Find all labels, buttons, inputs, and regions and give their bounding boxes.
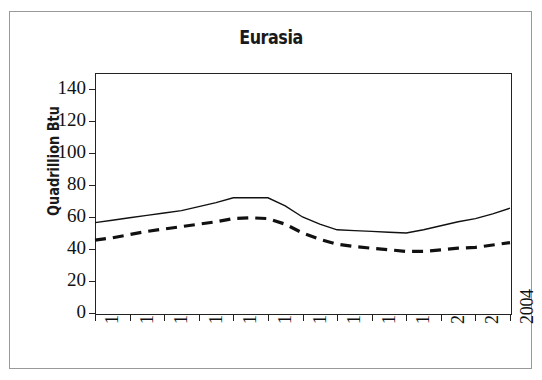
x-tick-mark: [130, 314, 131, 321]
x-tick-mark: [337, 314, 338, 321]
y-tick-label: 120: [26, 110, 86, 129]
y-tick-label: 40: [26, 238, 86, 257]
x-tick-mark: [303, 314, 304, 321]
x-tick-mark: [406, 314, 407, 321]
chart-figure: Eurasia Quadrillion Btu 0204060801001201…: [0, 0, 542, 380]
y-tick-label: 20: [26, 270, 86, 289]
x-tick-mark: [268, 314, 269, 321]
x-tick-mark: [441, 314, 442, 321]
x-tick-mark: [475, 314, 476, 321]
x-tick-mark: [95, 314, 96, 321]
x-tick-mark: [199, 314, 200, 321]
chart-title: Eurasia: [43, 26, 498, 48]
x-tick-mark: [510, 314, 511, 321]
y-tick-label: 140: [26, 78, 86, 97]
x-tick-label: 2004: [517, 289, 538, 324]
x-tick-mark: [372, 314, 373, 321]
x-tick-mark: [164, 314, 165, 321]
y-tick-label: 80: [26, 174, 86, 193]
y-tick-label: 100: [26, 142, 86, 161]
x-tick-mark: [233, 314, 234, 321]
y-tick-label: 60: [26, 206, 86, 225]
plot-area: [95, 73, 512, 315]
y-tick-label: 0: [26, 302, 86, 321]
